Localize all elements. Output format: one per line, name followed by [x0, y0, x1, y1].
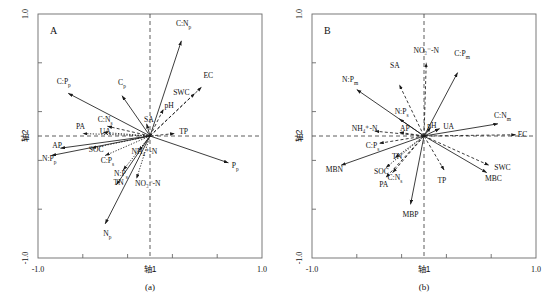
vector-label: PA: [379, 180, 389, 189]
vector-label: SA: [390, 61, 400, 70]
y-tick-label-max: 1.0: [21, 9, 30, 19]
vector-label: PA: [76, 122, 86, 131]
vector-label: C:Pp: [57, 77, 71, 88]
vector-label: EC: [203, 71, 213, 80]
vector-label: SWC: [173, 88, 189, 97]
vector-arrow: [411, 136, 424, 204]
plot-area-a: C:NpECSWCC:PpCppHSAC:NsUAPATPAPSOCN:PpC:…: [0, 0, 274, 298]
y-axis-title: 轴2: [20, 129, 30, 142]
vector-arrow: [379, 136, 424, 143]
x-axis-title: 轴1: [418, 264, 431, 274]
vector-label: NO₃⁻-N: [135, 179, 161, 188]
vector-label: C:Np: [176, 19, 192, 30]
vector-label: pH: [427, 121, 437, 130]
vector-label: C:Pm: [454, 49, 470, 60]
vector-arrow: [137, 136, 150, 179]
vector-label: SWC: [494, 163, 510, 172]
figure-ordination-biplots: C:NpECSWCC:PpCppHSAC:NsUAPATPAPSOCN:PpC:…: [0, 0, 548, 298]
vector-label: SA: [144, 115, 154, 124]
vector-label: MBN: [326, 165, 344, 174]
vector-label: MBC: [485, 174, 502, 183]
vector-label: C:Ns: [98, 115, 113, 126]
vector-label: TN: [392, 152, 403, 161]
vector-label: TN: [114, 178, 125, 187]
vector-label: NO₃⁻-N: [413, 46, 439, 55]
vector-label: TP: [179, 127, 188, 136]
panel-caption: (b): [419, 282, 430, 292]
vector-label: Pp: [232, 161, 239, 172]
x-axis-title: 轴1: [144, 264, 157, 274]
vector-label: AP: [400, 124, 410, 133]
x-tick-label-max: 1.0: [257, 265, 267, 274]
vector-label: C:Ps: [366, 141, 380, 152]
vector-label: C:Nm: [494, 111, 512, 122]
vector-arrow: [424, 136, 444, 170]
vector-arrow: [424, 136, 489, 165]
vector-label: Cp: [118, 78, 126, 89]
vector-label: Np: [103, 229, 111, 240]
vector-arrow: [107, 126, 150, 136]
vector-label: NH₄⁺-N: [352, 124, 378, 133]
plot-area-b: NO₃⁻-NC:PmSAN:PmN:PsC:NmUApHECAPNH₄⁺-NC:…: [274, 0, 548, 298]
panel-letter: A: [50, 25, 58, 36]
vector-label: N:Pm: [342, 75, 359, 86]
x-tick-label-min: -1.0: [32, 265, 45, 274]
vector-label: UA: [443, 122, 454, 131]
x-tick-label-max: 1.0: [531, 265, 541, 274]
panel-caption: (a): [145, 282, 155, 292]
vector-label: MBP: [403, 210, 419, 219]
vector-label: EC: [518, 130, 528, 139]
vector-label: TP: [437, 176, 446, 185]
vector-label: C:Ns: [387, 173, 402, 184]
panel-letter: B: [324, 25, 331, 36]
vector-arrow: [424, 136, 487, 173]
vector-label: AP: [52, 141, 62, 150]
vector-label: N:Ps: [395, 107, 409, 118]
panel-a: C:NpECSWCC:PpCppHSAC:NsUAPATPAPSOCN:PpC:…: [0, 0, 274, 298]
y-tick-label-min: -1.0: [21, 252, 30, 265]
y-tick-label-min: -1.0: [295, 252, 304, 265]
vector-label: pH: [164, 101, 174, 110]
vector-arrow: [150, 136, 228, 163]
y-tick-label-max: 1.0: [295, 9, 304, 19]
vector-arrow: [341, 136, 424, 165]
vector-label: C:Ps: [101, 156, 115, 167]
y-axis-title: 轴2: [294, 129, 304, 142]
x-tick-label-min: -1.0: [306, 265, 319, 274]
panel-b: NO₃⁻-NC:PmSAN:PmN:PsC:NmUApHECAPNH₄⁺-NC:…: [274, 0, 548, 298]
